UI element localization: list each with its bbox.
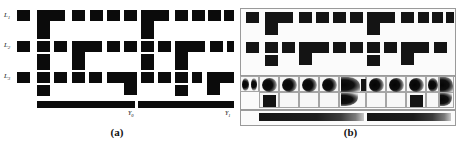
cell-block — [107, 10, 120, 21]
cell-block — [418, 12, 429, 23]
row-label-l2: L2 — [4, 41, 10, 50]
cell-block — [72, 10, 85, 21]
degraded-cell — [439, 76, 454, 92]
cell-block — [210, 41, 223, 52]
cell-block — [37, 72, 50, 83]
degraded-cell — [299, 76, 319, 92]
cell-block — [265, 42, 278, 53]
degraded-cell — [259, 92, 279, 108]
cell-block — [401, 12, 414, 23]
cell-block — [434, 42, 447, 53]
summary-bar-left — [259, 113, 364, 121]
cell-block — [224, 10, 234, 21]
degraded-cell — [386, 92, 406, 108]
degraded-cell — [319, 92, 339, 108]
degraded-cell — [439, 92, 454, 108]
degraded-cell — [339, 76, 366, 92]
degraded-cell — [279, 76, 299, 92]
cell-block — [37, 85, 50, 96]
summary-bar-right — [138, 101, 234, 108]
cell-block — [175, 62, 188, 70]
panel-b-caption: (b) — [234, 126, 467, 138]
cell-block — [175, 10, 188, 21]
cell-block — [367, 55, 380, 66]
cell-block — [54, 41, 67, 52]
bar-label-y0: Y0 — [128, 110, 134, 118]
cell-block — [89, 72, 102, 83]
summary-bar-right — [367, 113, 451, 121]
degraded-cell — [279, 92, 299, 108]
cell-block — [141, 62, 154, 70]
cell-block — [432, 12, 443, 23]
cell-block — [350, 42, 363, 53]
figure-container: L1 L2 L3 — [0, 0, 467, 148]
cell-block — [107, 41, 120, 52]
cell-block — [299, 12, 312, 23]
panel-b: (b) — [234, 0, 467, 148]
cell-block — [350, 12, 363, 23]
cell-block — [141, 41, 154, 52]
bar-label-y1: Y1 — [225, 110, 231, 118]
panel-a: L1 L2 L3 — [0, 0, 234, 148]
cell-block — [158, 72, 171, 83]
cell-block — [246, 42, 259, 53]
row-label-l3: L3 — [4, 72, 10, 81]
degraded-cell — [259, 76, 279, 92]
cell-block — [158, 41, 171, 52]
degraded-cell — [366, 92, 386, 108]
degraded-cell — [426, 92, 439, 108]
cell-block — [124, 10, 137, 21]
cell-block — [282, 42, 295, 53]
degraded-cell — [240, 76, 259, 92]
cell-block — [384, 42, 397, 53]
cell-block — [37, 41, 50, 52]
degraded-cell — [426, 76, 439, 92]
cell-block — [141, 30, 154, 39]
cell-block — [192, 72, 202, 83]
degraded-cell — [319, 76, 339, 92]
cell-block — [141, 72, 154, 83]
cell-block — [265, 55, 278, 66]
cell-block — [316, 12, 329, 23]
degraded-cell — [339, 92, 366, 108]
cell-block — [72, 72, 85, 83]
cell-block — [17, 10, 30, 21]
cell-block — [54, 72, 67, 83]
summary-bar-left — [37, 101, 135, 108]
cell-block — [227, 41, 234, 52]
cell-block — [17, 72, 30, 83]
degraded-cell — [406, 76, 426, 92]
cell-block — [175, 72, 188, 83]
degraded-cell — [386, 76, 406, 92]
degraded-cell — [299, 92, 319, 108]
cell-block — [124, 41, 137, 52]
cell-block — [72, 62, 85, 70]
degraded-cell — [366, 76, 386, 92]
cell-block — [17, 41, 30, 52]
cell-block — [37, 62, 50, 70]
cell-block — [333, 42, 346, 53]
cell-block — [175, 85, 188, 96]
cell-block — [208, 10, 221, 21]
panel-a-caption: (a) — [0, 126, 234, 138]
cell-block — [446, 12, 454, 23]
cell-block — [246, 12, 259, 23]
degraded-cell — [406, 92, 426, 108]
cell-block — [192, 10, 205, 21]
row-label-l1: L1 — [4, 11, 10, 20]
cell-block — [367, 42, 380, 53]
cell-block — [333, 12, 346, 23]
cell-block — [37, 30, 50, 39]
cell-block — [90, 10, 103, 21]
